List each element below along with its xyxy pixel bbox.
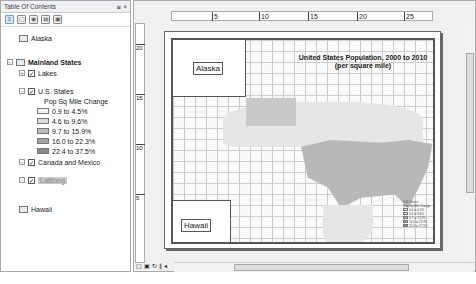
us-states-choropleth — [301, 140, 435, 208]
legend-class-5[interactable]: 22.4 to 37.5% — [37, 146, 95, 156]
swatch — [37, 108, 49, 114]
close-icon[interactable]: × — [123, 3, 127, 10]
layout-view[interactable]: 5 10 15 20 25 20 15 10 5 United States P… — [133, 0, 476, 272]
map-legend: U.S. StatesPop Sq Mile Change 0.9 to 4.5… — [403, 200, 435, 228]
swatch — [37, 118, 49, 124]
dataframe-icon — [19, 35, 28, 42]
scroll-thumb[interactable] — [466, 53, 474, 193]
horizontal-ruler: 5 10 15 20 25 — [171, 11, 433, 21]
map-title: United States Population, 2000 to 2010(p… — [283, 54, 435, 70]
vertical-ruler: 20 15 10 5 — [135, 23, 145, 263]
list-by-visibility-icon[interactable]: ◉ — [29, 15, 38, 24]
visibility-checkbox[interactable]: ✓ — [28, 88, 35, 95]
pin-icon[interactable]: ⩏ — [117, 3, 121, 10]
collapse-icon[interactable]: − — [7, 59, 13, 65]
visibility-checkbox[interactable]: ✓ — [28, 159, 35, 166]
map-frame-mainland[interactable]: United States Population, 2000 to 2010(p… — [171, 38, 435, 244]
visibility-checkbox[interactable]: ✓ — [28, 70, 35, 77]
swatch — [37, 128, 49, 134]
list-by-source-icon[interactable]: ▢ — [17, 15, 26, 24]
mexico-landmass — [323, 205, 373, 244]
toc-tree: Alaska −Mainland States +✓Lakes −✓U.S. S… — [1, 29, 130, 271]
table-of-contents-panel: Table Of Contents ⩏ × ≡ ▢ ◉ ▤ ▣ Alaska −… — [0, 0, 131, 272]
data-view-icon[interactable]: ▢ — [136, 262, 142, 269]
legend-class-4[interactable]: 16.0 to 22.3% — [37, 136, 95, 146]
layout-view-icon[interactable]: ▣ — [144, 262, 150, 269]
pause-icon[interactable]: ∥ — [159, 262, 162, 269]
options-icon[interactable]: ▣ — [53, 15, 62, 24]
collapse-icon[interactable]: − — [19, 159, 25, 165]
inset-alaska[interactable]: Alaska — [173, 40, 246, 97]
horizontal-scrollbar[interactable] — [174, 262, 474, 272]
swatch — [37, 138, 49, 144]
layer-lakes[interactable]: +✓Lakes — [19, 68, 57, 78]
legend-class-2[interactable]: 4.6 to 9.6% — [37, 116, 87, 126]
dataframe-icon — [19, 206, 28, 213]
layer-latlong[interactable]: −✓Lattlong — [19, 175, 67, 185]
dataframe-alaska[interactable]: Alaska — [19, 33, 52, 43]
scroll-thumb[interactable] — [234, 264, 409, 271]
toc-titlebar: Table Of Contents ⩏ × — [1, 1, 130, 13]
dataframe-icon — [16, 59, 25, 66]
visibility-checkbox[interactable]: ✓ — [28, 177, 35, 184]
collapse-icon[interactable]: − — [19, 88, 25, 94]
alaska-shape — [246, 98, 296, 126]
toc-toolbar: ≡ ▢ ◉ ▤ ▣ — [1, 13, 130, 27]
dataframe-mainland-states[interactable]: −Mainland States — [7, 57, 81, 67]
swatch — [37, 148, 49, 154]
list-by-drawing-order-icon[interactable]: ≡ — [5, 15, 14, 24]
layer-us-states[interactable]: −✓U.S. States — [19, 86, 73, 96]
dataframe-hawaii[interactable]: Hawaii — [19, 204, 52, 214]
legend-class-3[interactable]: 9.7 to 15.9% — [37, 126, 91, 136]
expand-icon[interactable]: + — [19, 70, 25, 76]
legend-class-1[interactable]: 0.9 to 4.5% — [37, 106, 87, 116]
view-buttons: ▢ ▣ ↻ ∥ ◂ — [136, 262, 167, 269]
refresh-icon[interactable]: ↻ — [152, 262, 157, 269]
vertical-scrollbar[interactable] — [465, 23, 475, 261]
scroll-left-icon[interactable]: ◂ — [164, 262, 167, 269]
inset-hawaii[interactable]: Hawaii — [173, 200, 231, 244]
layer-canada-mexico[interactable]: −✓Canada and Mexico — [19, 157, 100, 167]
toc-title: Table Of Contents — [4, 3, 56, 10]
layout-page: United States Population, 2000 to 2010(p… — [164, 31, 441, 249]
legend-heading: Pop Sq Mile Change — [44, 96, 108, 106]
collapse-icon[interactable]: − — [19, 177, 25, 183]
list-by-selection-icon[interactable]: ▤ — [41, 15, 50, 24]
